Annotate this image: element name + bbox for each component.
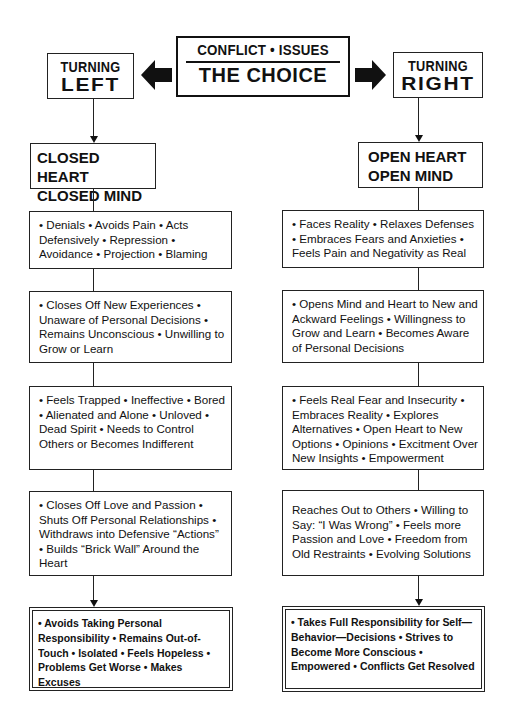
open-heart-line1: OPEN HEART [365, 147, 482, 166]
left-box-2: • Closes Off New Experiences • Unaware o… [29, 291, 232, 363]
closed-heart-line2: CLOSED MIND [37, 186, 155, 205]
connector-line [418, 470, 419, 490]
right-outcome-box: • Takes Full Responsibility for Self—Beh… [282, 606, 485, 692]
arrow-down-icon [90, 600, 98, 607]
open-heart-line2: OPEN MIND [365, 166, 482, 185]
open-heart-box: OPEN HEART OPEN MIND [358, 142, 483, 188]
right-box-3: • Feels Real Fear and Insecurity • Embra… [282, 386, 484, 470]
connector-line [93, 576, 94, 601]
left-box-1: • Denials • Avoids Pain • Acts Defensive… [29, 211, 232, 269]
choice-box: CONFLICT • ISSUES THE CHOICE [176, 36, 350, 97]
connector-line [93, 269, 94, 291]
turning-left-top: TURNING [54, 54, 126, 75]
turning-right-main: RIGHT [390, 74, 487, 94]
turning-right-top: TURNING [401, 53, 476, 74]
arrow-down-icon [415, 135, 423, 142]
left-box-4: • Closes Off Love and Passion • Shuts Of… [29, 491, 232, 576]
left-outcome-text: • Avoids Taking Personal Responsibility … [38, 616, 225, 690]
connector-line [418, 98, 419, 136]
connector-line [93, 470, 94, 491]
connector-line [418, 363, 419, 386]
arrow-down-icon [90, 136, 98, 143]
closed-heart-box: CLOSED HEART CLOSED MIND [30, 143, 156, 189]
turning-left-box: TURNING LEFT [47, 53, 134, 99]
left-box-3: • Feels Trapped • Ineffective • Bored • … [29, 386, 232, 470]
right-box-2: • Opens Mind and Heart to New and Ackwar… [282, 290, 484, 363]
the-choice-title: THE CHOICE [178, 64, 348, 86]
connector-line [418, 188, 419, 210]
connector-line [93, 363, 94, 386]
right-box-4: Reaches Out to Others • Willing to Say: … [282, 490, 484, 576]
arrow-down-icon [415, 599, 423, 606]
conflict-issues-label: CONFLICT • ISSUES [185, 38, 341, 59]
connector-line [418, 268, 419, 290]
right-outcome-text: • Takes Full Responsibility for Self—Beh… [291, 615, 477, 674]
connector-line [93, 189, 94, 211]
arrow-left-icon [141, 60, 172, 90]
right-box-1: • Faces Reality • Relaxes Defenses • Emb… [282, 210, 484, 268]
turning-right-box: TURNING RIGHT [393, 52, 483, 98]
closed-heart-line1: CLOSED HEART [37, 148, 155, 186]
left-outcome-box: • Avoids Taking Personal Responsibility … [29, 607, 233, 691]
divider [186, 61, 340, 63]
connector-line [93, 99, 94, 137]
turning-left-main: LEFT [44, 75, 138, 95]
connector-line [418, 576, 419, 600]
arrow-right-icon [355, 60, 386, 90]
